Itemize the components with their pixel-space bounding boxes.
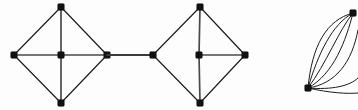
graph-diagram-canvas (0, 0, 358, 110)
right-diamond-spoke-edges (199, 7, 245, 103)
node-R-left (150, 52, 156, 58)
edge-Ltop-Lright (61, 7, 107, 55)
left-diamond-group (11, 4, 110, 106)
edge-Rtop-Rleft (153, 7, 200, 55)
node-L-center (58, 52, 64, 58)
edge-Rleft-Rbottom (153, 55, 200, 103)
multi-edge-bundle-group (305, 10, 358, 94)
node-R-top (197, 4, 203, 10)
edge-Ltop-Lleft (14, 7, 61, 55)
multi-edge-5 (308, 30, 358, 88)
edge-Rtop-Rright (200, 7, 245, 55)
multi-edge-3 (308, 13, 353, 88)
node-R-bottom (197, 100, 203, 106)
node-L-top (58, 4, 64, 10)
edge-Rright-Rbottom (200, 55, 245, 103)
node-R-right (242, 52, 248, 58)
edge-Lleft-Lbottom (14, 55, 61, 103)
node-L-bottom (58, 100, 64, 106)
graph-svg (0, 0, 358, 110)
node-L-left (11, 52, 17, 58)
edge-Rtop-Rcenter (199, 7, 200, 55)
node-M-top (350, 10, 356, 16)
node-R-center (196, 52, 202, 58)
right-diamond-group (150, 4, 248, 106)
edge-Rbottom-Rcenter (199, 55, 200, 103)
node-M-bottom (305, 85, 311, 91)
edge-Lright-Lbottom (61, 55, 107, 103)
